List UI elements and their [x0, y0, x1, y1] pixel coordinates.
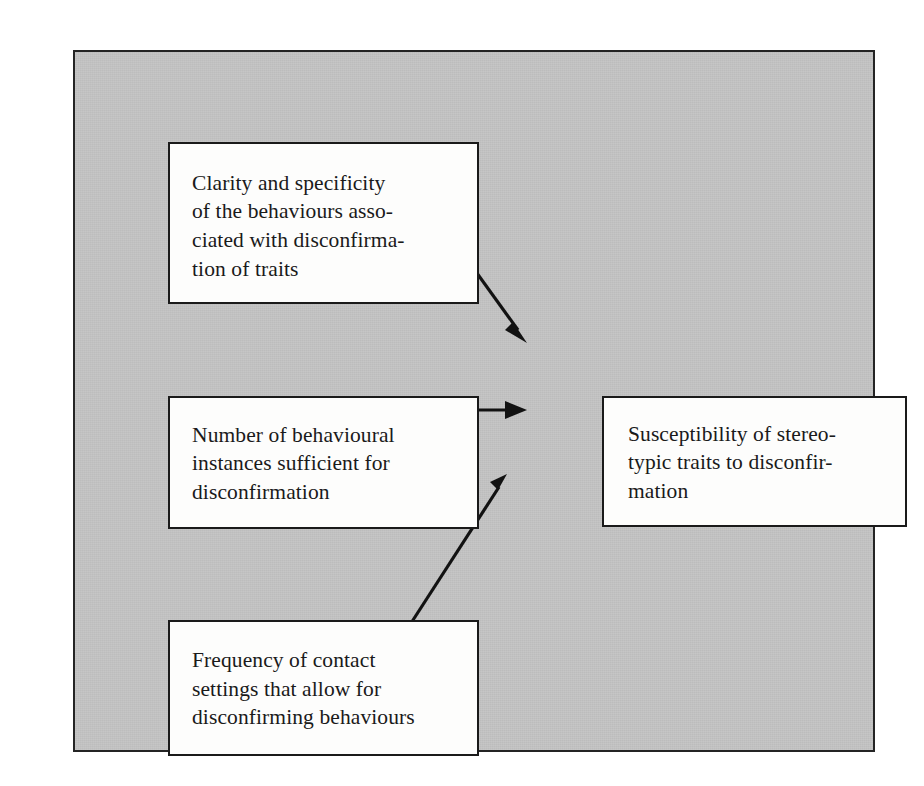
node-clarity-label: Clarity and specificity of the behaviour… [170, 163, 477, 283]
node-frequency-label: Frequency of contact settings that allow… [170, 644, 477, 732]
node-susceptibility-label: Susceptibility of stereo- typic traits t… [604, 418, 905, 506]
figure-root: Clarity and specificity of the behaviour… [0, 0, 924, 786]
node-number-label: Number of behavioural instances sufficie… [170, 419, 477, 507]
diagram-panel: Clarity and specificity of the behaviour… [73, 50, 875, 752]
node-clarity: Clarity and specificity of the behaviour… [168, 142, 479, 304]
node-frequency: Frequency of contact settings that allow… [168, 620, 479, 756]
node-number: Number of behavioural instances sufficie… [168, 396, 479, 529]
node-susceptibility: Susceptibility of stereo- typic traits t… [602, 396, 907, 527]
